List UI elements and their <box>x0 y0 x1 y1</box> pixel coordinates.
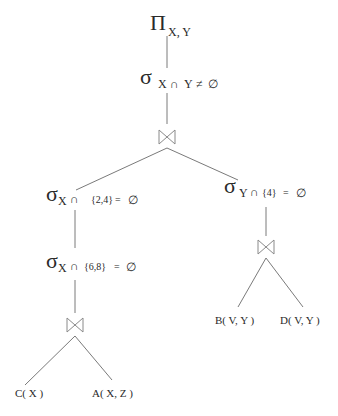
intersect-symbol: ∩ <box>250 185 259 199</box>
join-top-icon <box>159 130 175 144</box>
set-literal: {2,4} <box>91 194 113 205</box>
intersect-symbol: ∩ <box>70 192 79 206</box>
set-literal: {6,8} <box>84 261 106 272</box>
empty-set-symbol: ∅ <box>126 260 136 274</box>
selection-left-1-node: σ X ∩ {2,4} = ∅ <box>46 181 138 208</box>
join-left-icon <box>67 318 83 332</box>
projection-subscript: X, Y <box>168 25 191 39</box>
intersect-symbol: ∩ <box>170 77 179 91</box>
join-right-icon <box>258 240 274 254</box>
equals-symbol: = <box>114 261 120 272</box>
edge-join-d <box>266 258 303 307</box>
empty-set-symbol: ∅ <box>296 186 306 200</box>
equals-symbol: = <box>283 187 289 198</box>
sigma-symbol: σ <box>46 248 58 273</box>
intersect-symbol: ∩ <box>70 259 79 273</box>
relation-c-leaf: C( X ) <box>15 387 43 400</box>
projection-symbol: Π <box>150 10 166 35</box>
edge-join-b <box>238 258 266 307</box>
relation-d-leaf: D( V, Y ) <box>280 314 320 327</box>
not-equal-symbol: ≠ <box>196 77 203 91</box>
sigma-symbol: σ <box>46 181 58 206</box>
relation-b-leaf: B( V, Y ) <box>215 314 254 327</box>
empty-set-symbol: ∅ <box>208 77 218 91</box>
sigma-symbol: σ <box>224 173 236 198</box>
query-tree-diagram: Π X, Y σ X ∩ Y ≠ ∅ σ X ∩ {2,4} = ∅ σ X ∩… <box>0 0 338 416</box>
selection-var-x: X <box>158 77 167 91</box>
selection-left-2-node: σ X ∩ {6,8} = ∅ <box>46 248 136 275</box>
empty-set-symbol: ∅ <box>128 193 138 207</box>
edge-join-a <box>75 336 112 380</box>
equals-symbol: = <box>115 194 121 205</box>
relation-a-leaf: A( X, Z ) <box>92 387 133 400</box>
set-literal: {4} <box>262 187 277 198</box>
edge-join-left <box>76 148 167 190</box>
sigma-symbol: σ <box>140 64 152 89</box>
selection-var: X <box>58 194 67 208</box>
selection-var: X <box>58 261 67 275</box>
selection-right-node: σ Y ∩ {4} = ∅ <box>224 173 306 200</box>
selection-top-node: σ X ∩ Y ≠ ∅ <box>140 64 218 91</box>
edge-join-c <box>25 336 75 385</box>
selection-var-y: Y <box>184 77 193 91</box>
projection-node: Π X, Y <box>150 10 191 39</box>
selection-var: Y <box>239 186 248 200</box>
